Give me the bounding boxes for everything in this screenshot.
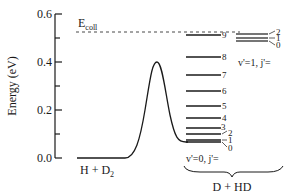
- tick-label-0.4: 0.4: [37, 55, 52, 69]
- v0-levels: [186, 35, 221, 142]
- reaction-path-curve: [77, 62, 188, 158]
- tick-label-0.2: 0.2: [37, 103, 52, 117]
- v0-j8-label: 8: [222, 52, 227, 62]
- v0-j3-label: 3: [221, 122, 226, 132]
- tick-label-0.6: 0.6: [37, 7, 52, 21]
- v1-j0-label: 0: [276, 40, 281, 50]
- y-axis: [55, 14, 62, 158]
- v0-j6-label: 6: [222, 86, 227, 96]
- collision-energy-label: Ecoll: [78, 16, 98, 32]
- v0-j7-label: 7: [222, 70, 227, 80]
- reactants-label: H + D2: [80, 163, 114, 179]
- y-axis-label: Energy (eV): [5, 56, 19, 115]
- products-brace: [184, 166, 283, 177]
- v0-leader-lines: [222, 131, 227, 147]
- products-label: D + HD: [213, 180, 252, 194]
- v1-leader-lines: [269, 31, 275, 45]
- energy-diagram: 0.6 0.4 0.2 0.0 Energy (eV) Ecoll H + D2…: [0, 0, 299, 196]
- v0-j9-label: 9: [222, 30, 227, 40]
- v0-label: v'=0, j'=: [186, 153, 219, 164]
- v0-j0-label: 0: [228, 143, 233, 153]
- v1-label: v'=1, j'=: [238, 57, 271, 68]
- v1-levels: [236, 34, 268, 41]
- tick-label-0.0: 0.0: [37, 151, 52, 165]
- v0-j5-label: 5: [222, 101, 227, 111]
